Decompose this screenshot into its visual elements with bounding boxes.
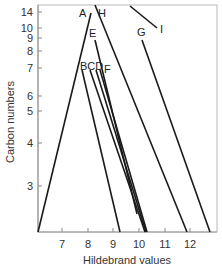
series-lines (38, 5, 210, 232)
hildebrand-chart: 14 10 9 8 7 6 5 4 3 7 8 9 10 11 12 Hilde… (0, 0, 222, 269)
x-tick-11: 11 (159, 238, 170, 250)
line-c (90, 70, 145, 232)
x-tick-7: 7 (59, 238, 65, 250)
y-tick-9: 9 (27, 32, 33, 44)
x-tick-8: 8 (85, 238, 91, 250)
y-axis-title: Carbon numbers (4, 81, 16, 163)
line-i (130, 6, 157, 28)
label-a: A (79, 7, 87, 19)
line-h (95, 5, 187, 232)
line-b (82, 70, 120, 232)
y-tick-14: 14 (21, 6, 33, 18)
label-g: G (137, 26, 146, 38)
y-tick-4: 4 (27, 137, 33, 149)
y-tick-3: 3 (27, 180, 33, 192)
label-bcd: BCD (80, 60, 103, 72)
x-tick-labels: 7 8 9 10 11 12 (59, 238, 196, 250)
x-tick-12: 12 (184, 238, 196, 250)
line-f (100, 70, 147, 232)
line-a (38, 13, 91, 232)
x-tick-10: 10 (133, 238, 145, 250)
y-tick-5: 5 (27, 105, 33, 117)
y-tick-8: 8 (27, 45, 33, 57)
label-h: H (98, 7, 106, 19)
y-tick-7: 7 (27, 62, 33, 74)
x-axis-title: Hildebrand values (83, 254, 172, 266)
label-i: I (160, 23, 163, 35)
label-f: F (104, 63, 111, 75)
y-tick-labels: 14 10 9 8 7 6 5 4 3 (21, 6, 33, 192)
y-tick-6: 6 (27, 90, 33, 102)
line-d (96, 70, 146, 232)
label-e: E (89, 27, 96, 39)
x-tick-9: 9 (110, 238, 116, 250)
